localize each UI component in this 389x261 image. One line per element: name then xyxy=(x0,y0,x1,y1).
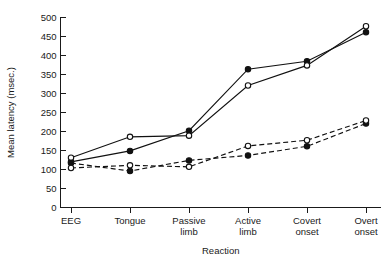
y-axis-tick-label: 400 xyxy=(41,50,57,61)
x-axis-tick-label: Active xyxy=(235,215,261,226)
data-point-solid-open-passive-limb xyxy=(186,133,191,138)
x-axis-tick-label: Tongue xyxy=(114,215,145,226)
data-point-dashed-open-overt-onset xyxy=(363,118,368,123)
chart-plot-area: 050100150200250300350400450500 EEGTongue… xyxy=(0,0,389,261)
y-axis-tick-label: 100 xyxy=(41,164,57,175)
y-axis-tick-label: 350 xyxy=(41,69,57,80)
data-point-dashed-open-covert-onset xyxy=(304,138,309,143)
series-line-dashed-open xyxy=(71,120,366,167)
data-point-dashed-filled-passive-limb xyxy=(186,158,191,163)
y-axis-tick-label: 450 xyxy=(41,31,57,42)
y-axis-tick-label: 250 xyxy=(41,107,57,118)
y-axis-tick-label: 300 xyxy=(41,88,57,99)
data-point-solid-filled-overt-onset xyxy=(363,30,368,35)
x-axis: EEGTonguePassivelimbActivelimbCovertonse… xyxy=(61,208,382,237)
line-chart: 050100150200250300350400450500 EEGTongue… xyxy=(0,0,389,261)
data-point-solid-open-overt-onset xyxy=(363,24,368,29)
data-point-solid-filled-active-limb xyxy=(245,66,250,71)
data-point-dashed-open-tongue xyxy=(127,163,132,168)
data-point-dashed-filled-covert-onset xyxy=(304,144,309,149)
series-line-dashed-filled xyxy=(71,124,366,172)
data-point-solid-open-eeg xyxy=(68,155,73,160)
y-axis-tick-label: 200 xyxy=(41,126,57,137)
y-axis-title: Mean latency (msec.) xyxy=(5,67,16,158)
data-point-solid-open-tongue xyxy=(127,134,132,139)
x-axis-tick-label: onset xyxy=(295,226,319,237)
data-point-solid-filled-tongue xyxy=(127,148,132,153)
series-line-solid-open xyxy=(71,26,366,157)
x-axis-tick-label: EEG xyxy=(61,215,81,226)
x-axis-tick-label: limb xyxy=(180,226,197,237)
y-axis-tick-label: 500 xyxy=(41,12,57,23)
x-axis-tick-label: Covert xyxy=(293,215,321,226)
data-point-solid-open-covert-onset xyxy=(304,63,309,68)
x-axis-tick-label: onset xyxy=(354,226,378,237)
data-point-solid-open-active-limb xyxy=(245,83,250,88)
y-axis: 050100150200250300350400450500 xyxy=(41,12,66,213)
data-series-group xyxy=(68,24,368,174)
data-point-dashed-filled-tongue xyxy=(127,168,132,173)
x-axis-tick-label: Passive xyxy=(172,215,205,226)
data-point-dashed-open-eeg xyxy=(68,165,73,170)
data-point-dashed-filled-active-limb xyxy=(245,153,250,158)
x-axis-tick-label: Overt xyxy=(354,215,378,226)
data-point-dashed-open-active-limb xyxy=(245,143,250,148)
x-axis-title: Reaction xyxy=(202,245,240,256)
data-point-dashed-open-passive-limb xyxy=(186,164,191,169)
x-axis-tick-label: limb xyxy=(239,226,256,237)
y-axis-tick-label: 150 xyxy=(41,145,57,156)
y-axis-tick-label: 50 xyxy=(46,183,57,194)
y-axis-tick-label: 0 xyxy=(51,202,56,213)
